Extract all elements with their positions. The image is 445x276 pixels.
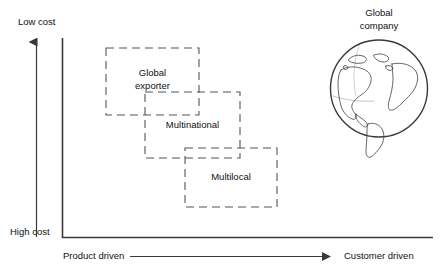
customer-driven-label: Customer driven: [344, 250, 414, 262]
global-company-caption-line1: Global: [340, 7, 418, 20]
global-company-caption: Global company: [340, 7, 418, 32]
strategy-matrix-figure: Low cost High cost Product driven Custom…: [0, 0, 445, 276]
high-cost-label: High cost: [10, 226, 50, 238]
multinational-label: Multinational: [145, 119, 240, 132]
multilocal-label-line1: Multilocal: [185, 171, 277, 184]
global-exporter-label: Global exporter: [106, 67, 199, 92]
globe-circle: [331, 40, 428, 137]
global-company-caption-line2: company: [340, 20, 418, 33]
global-exporter-label-line2: exporter: [106, 80, 199, 93]
low-cost-label: Low cost: [18, 16, 56, 28]
product-driven-label: Product driven: [63, 250, 124, 262]
multinational-label-line1: Multinational: [145, 119, 240, 132]
globe-illustration: [331, 40, 428, 157]
global-exporter-label-line1: Global: [106, 67, 199, 80]
diagram-canvas: [0, 0, 445, 276]
multilocal-label: Multilocal: [185, 171, 277, 184]
